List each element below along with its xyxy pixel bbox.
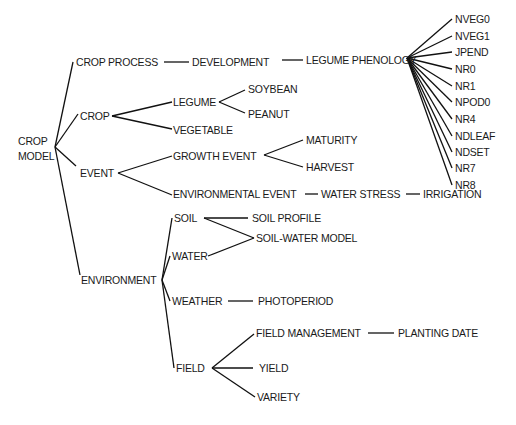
node-maturity: MATURITY xyxy=(306,134,357,146)
node-water: WATER xyxy=(172,250,208,262)
node-harvest: HARVEST xyxy=(306,161,354,173)
node-stage-nveg1: NVEG1 xyxy=(455,30,490,42)
node-field-management: FIELD MANAGEMENT xyxy=(256,327,361,339)
node-crop-model-line2: MODEL xyxy=(18,150,54,162)
node-crop: CROP xyxy=(80,110,110,122)
node-variety: VARIETY xyxy=(257,391,300,403)
node-planting-date: PLANTING DATE xyxy=(398,327,478,339)
node-peanut: PEANUT xyxy=(248,108,289,120)
node-soil: SOIL xyxy=(174,212,197,224)
node-crop-model-line1: CROP xyxy=(18,135,48,147)
node-weather: WEATHER xyxy=(172,295,222,307)
node-stage-npod0: NPOD0 xyxy=(455,96,490,108)
node-stage-jpend: JPEND xyxy=(455,46,488,58)
node-event: EVENT xyxy=(80,167,114,179)
node-field: FIELD xyxy=(176,362,205,374)
node-stage-ndset: NDSET xyxy=(455,146,490,158)
node-soil-profile: SOIL PROFILE xyxy=(252,212,321,224)
node-stage-nr7: NR7 xyxy=(455,162,475,174)
node-water-stress: WATER STRESS xyxy=(321,188,400,200)
node-legume-phenology: LEGUME PHENOLOGY xyxy=(306,54,417,66)
node-stage-nr1: NR1 xyxy=(455,80,475,92)
node-stage-nveg0: NVEG0 xyxy=(455,13,490,25)
node-environmental-event: ENVIRONMENTAL EVENT xyxy=(173,188,296,200)
node-stage-nr0: NR0 xyxy=(455,63,475,75)
node-photoperiod: PHOTOPERIOD xyxy=(258,295,333,307)
node-soybean: SOYBEAN xyxy=(248,83,297,95)
node-stage-ndleaf: NDLEAF xyxy=(455,130,495,142)
node-development: DEVELOPMENT xyxy=(192,56,269,68)
node-legume: LEGUME xyxy=(173,96,216,108)
node-growth-event: GROWTH EVENT xyxy=(173,150,256,162)
node-stage-nr4: NR4 xyxy=(455,113,475,125)
node-vegetable: VEGETABLE xyxy=(173,124,233,136)
node-yield: YIELD xyxy=(259,362,288,374)
node-environment: ENVIRONMENT xyxy=(81,274,156,286)
node-crop-process: CROP PROCESS xyxy=(76,56,158,68)
node-irrigation: IRRIGATION xyxy=(423,188,481,200)
node-soil-water-model: SOIL-WATER MODEL xyxy=(256,232,357,244)
